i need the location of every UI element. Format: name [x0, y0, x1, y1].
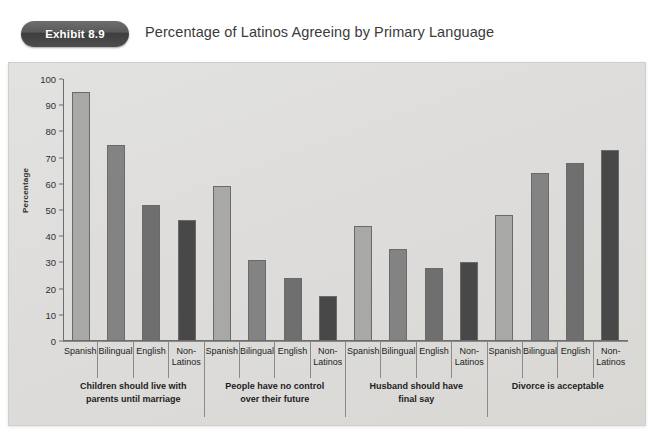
- x-tick-label-spanish: Spanish: [488, 342, 523, 378]
- x-tick-label-line: Bilingual: [98, 346, 132, 357]
- y-axis-label: Percentage: [21, 168, 30, 213]
- x-tick-label-non-latinos: Non-Latinos: [452, 342, 486, 378]
- tick-group: SpanishBilingualEnglishNon-Latinos: [346, 342, 488, 378]
- x-tick-label-line: Bilingual: [240, 346, 274, 357]
- x-tick-label-bilingual: Bilingual: [240, 342, 275, 378]
- bar-slot: [98, 79, 133, 341]
- chart-header: Exhibit 8.9 Percentage of Latinos Agreei…: [0, 0, 652, 62]
- group-caption: Children should live withparents until m…: [63, 377, 205, 417]
- x-tick-label-spanish: Spanish: [63, 342, 98, 378]
- bar-english[interactable]: [566, 163, 584, 341]
- group-caption-line: over their future: [205, 393, 346, 406]
- x-tick-label-line: Latinos: [594, 357, 628, 368]
- x-tick-label-line: Non-: [452, 346, 486, 357]
- x-tick-label-line: English: [558, 346, 592, 357]
- bar-spanish[interactable]: [354, 226, 372, 341]
- bar-slot: [557, 79, 592, 341]
- bar-non-latinos[interactable]: [460, 262, 478, 341]
- exhibit-badge: Exhibit 8.9: [21, 21, 129, 47]
- tick-group: SpanishBilingualEnglishNon-Latinos: [488, 342, 629, 378]
- bar-bilingual[interactable]: [248, 260, 266, 341]
- bar-slot: [522, 79, 557, 341]
- bars-layer: [63, 79, 628, 341]
- bar-slot: [451, 79, 486, 341]
- group-caption-line: Children should live with: [63, 380, 204, 393]
- group-caption-line: People have no control: [205, 380, 346, 393]
- bar-group: [204, 79, 345, 341]
- bar-slot: [275, 79, 310, 341]
- x-axis-group-captions: Children should live withparents until m…: [63, 377, 628, 417]
- bar-bilingual[interactable]: [107, 145, 125, 342]
- x-tick-label-line: Spanish: [63, 346, 97, 357]
- x-tick-label-non-latinos: Non-Latinos: [594, 342, 628, 378]
- x-tick-label-bilingual: Bilingual: [98, 342, 133, 378]
- x-tick-label-line: Latinos: [169, 357, 203, 368]
- group-caption: Husband should havefinal say: [346, 377, 488, 417]
- bar-bilingual[interactable]: [531, 173, 549, 341]
- x-tick-label-line: Non-: [594, 346, 628, 357]
- bar-slot: [134, 79, 169, 341]
- x-tick-label-non-latinos: Non-Latinos: [169, 342, 203, 378]
- bar-slot: [169, 79, 204, 341]
- bar-non-latinos[interactable]: [319, 296, 337, 341]
- x-tick-label-line: Bilingual: [381, 346, 415, 357]
- group-caption-line: parents until marriage: [63, 393, 204, 406]
- x-tick-label-line: Latinos: [452, 357, 486, 368]
- x-tick-label-line: Spanish: [488, 346, 522, 357]
- x-tick-label-line: English: [134, 346, 168, 357]
- x-tick-label-bilingual: Bilingual: [523, 342, 558, 378]
- tick-group: SpanishBilingualEnglishNon-Latinos: [205, 342, 347, 378]
- bar-slot: [240, 79, 275, 341]
- group-caption-line: Husband should have: [346, 380, 487, 393]
- page-title: Percentage of Latinos Agreeing by Primar…: [145, 24, 494, 40]
- plot-area: 1009080706050403020100: [63, 79, 628, 341]
- x-tick-label-line: Spanish: [205, 346, 239, 357]
- bar-slot: [381, 79, 416, 341]
- x-tick-label-spanish: Spanish: [346, 342, 381, 378]
- group-caption-line: final say: [346, 393, 487, 406]
- x-tick-label-line: Non-: [169, 346, 203, 357]
- bar-english[interactable]: [425, 268, 443, 341]
- x-tick-label-line: English: [275, 346, 309, 357]
- x-tick-label-line: Non-: [311, 346, 345, 357]
- x-tick-label-line: Bilingual: [523, 346, 557, 357]
- bar-group: [487, 79, 628, 341]
- x-tick-label-spanish: Spanish: [205, 342, 240, 378]
- x-tick-label-line: Latinos: [311, 357, 345, 368]
- bar-spanish[interactable]: [495, 215, 513, 341]
- x-tick-label-english: English: [558, 342, 593, 378]
- x-tick-label-english: English: [417, 342, 452, 378]
- x-tick-label-line: English: [417, 346, 451, 357]
- bar-slot: [487, 79, 522, 341]
- tick-group: SpanishBilingualEnglishNon-Latinos: [63, 342, 205, 378]
- x-tick-label-bilingual: Bilingual: [381, 342, 416, 378]
- bar-group: [346, 79, 487, 341]
- group-caption-line: Divorce is acceptable: [488, 380, 629, 393]
- group-caption: People have no controlover their future: [205, 377, 347, 417]
- bar-non-latinos[interactable]: [601, 150, 619, 341]
- bar-spanish[interactable]: [72, 92, 90, 341]
- bar-slot: [416, 79, 451, 341]
- bar-slot: [63, 79, 98, 341]
- bar-slot: [593, 79, 628, 341]
- chart-card: Percentage 1009080706050403020100 Spanis…: [8, 62, 646, 426]
- bar-non-latinos[interactable]: [178, 220, 196, 341]
- bar-slot: [346, 79, 381, 341]
- x-tick-label-english: English: [134, 342, 169, 378]
- x-tick-label-english: English: [275, 342, 310, 378]
- bar-bilingual[interactable]: [389, 249, 407, 341]
- bar-slot: [204, 79, 239, 341]
- group-caption: Divorce is acceptable: [488, 377, 629, 417]
- x-tick-label-line: Spanish: [346, 346, 380, 357]
- bar-spanish[interactable]: [213, 186, 231, 341]
- bar-group: [63, 79, 204, 341]
- bar-english[interactable]: [142, 205, 160, 341]
- bar-slot: [310, 79, 345, 341]
- x-axis-tick-labels: SpanishBilingualEnglishNon-LatinosSpanis…: [63, 341, 628, 378]
- bar-english[interactable]: [284, 278, 302, 341]
- x-tick-label-non-latinos: Non-Latinos: [311, 342, 345, 378]
